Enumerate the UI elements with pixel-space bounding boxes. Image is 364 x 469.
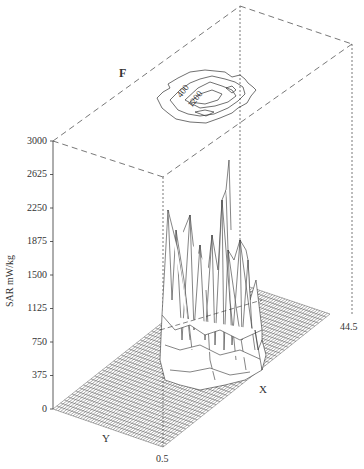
x-start-label: 0.5 bbox=[156, 453, 169, 464]
z-tick-2250: 2250 bbox=[7, 202, 47, 213]
y-axis-title: Y bbox=[102, 432, 110, 444]
contour-projection bbox=[157, 70, 256, 123]
x-end-label: 44.5 bbox=[340, 321, 358, 332]
z-axis-title: SAR mW/kg bbox=[4, 255, 15, 307]
z-tick-2625: 2625 bbox=[7, 168, 47, 179]
z-axis-ticks bbox=[50, 141, 53, 409]
sar-3d-surface-chart bbox=[0, 0, 364, 469]
z-tick-375: 375 bbox=[7, 369, 47, 380]
panel-label: F bbox=[119, 66, 126, 81]
z-tick-1875: 1875 bbox=[7, 235, 47, 246]
z-tick-750: 750 bbox=[7, 336, 47, 347]
x-axis-title: X bbox=[259, 383, 267, 395]
sar-surface bbox=[160, 160, 266, 390]
z-tick-0: 0 bbox=[7, 403, 47, 414]
z-tick-3000: 3000 bbox=[7, 135, 47, 146]
